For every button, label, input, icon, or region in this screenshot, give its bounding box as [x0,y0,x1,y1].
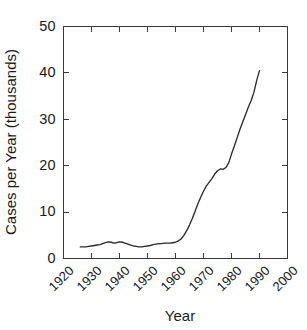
x-tick-label: 1970 [186,263,217,294]
x-tick-label: 1940 [102,263,133,294]
x-tick-label: 1950 [130,263,161,294]
y-tick-label: 50 [39,18,55,34]
data-series-line [80,71,259,247]
y-tick-label: 30 [39,111,55,127]
y-tick-label: 0 [47,250,55,266]
y-tick-label: 10 [39,203,55,219]
x-tick-label: 1930 [74,263,105,294]
y-tick-label: 20 [39,157,55,173]
x-tick-label: 1980 [214,263,245,294]
x-axis-tick-labels: 192019301940195019601970198019902000 [46,263,301,294]
y-axis-tick-labels: 01020304050 [39,18,55,266]
y-axis-tick-marks [64,27,70,259]
chart-container: 01020304050 1920193019401950196019701980… [0,0,307,330]
x-tick-label: 1920 [46,263,77,294]
x-axis-title: Year [165,307,195,324]
x-tick-label: 2000 [270,263,301,294]
y-tick-label: 40 [39,64,55,80]
x-tick-label: 1990 [242,263,273,294]
line-chart: 01020304050 1920193019401950196019701980… [0,0,307,330]
x-axis-top-tick-marks [64,27,288,33]
y-axis-title: Cases per Year (thousands) [2,49,19,235]
x-axis-tick-marks [64,253,288,259]
x-tick-label: 1960 [158,263,189,294]
axis-frame [64,26,288,259]
y-axis-right-tick-marks [282,27,288,259]
